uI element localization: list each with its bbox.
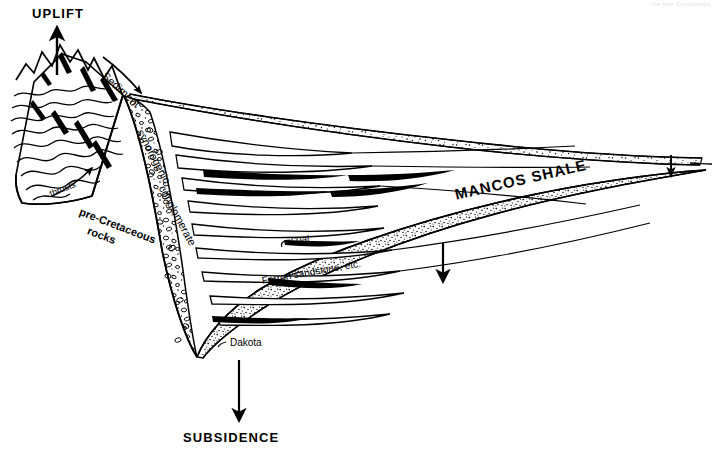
corner-caption: the late Cretaceous xyxy=(651,1,711,7)
dakota-leader-line xyxy=(218,342,226,347)
subsidence-label: SUBSIDENCE xyxy=(183,430,279,445)
figure-canvas: UPLIFT SUBSIDENCE MANCOS SHALE Sediment … xyxy=(0,0,717,456)
uplift-label: UPLIFT xyxy=(32,6,84,21)
coal-label: coal xyxy=(291,234,309,245)
dakota-label: Dakota xyxy=(230,337,262,348)
